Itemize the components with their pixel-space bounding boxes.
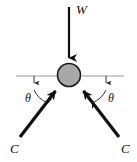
weight-label: W [76,2,88,17]
angle-arc-right [92,90,106,103]
diagram-canvas: W θ θ C C [0,0,137,162]
cable-label-left: C [10,141,19,156]
cable-label-right: C [121,141,130,156]
angle-label-left: θ [25,91,31,105]
free-body-diagram: W θ θ C C [0,0,137,162]
node-particle [58,64,81,87]
angle-label-right: θ [108,91,114,105]
